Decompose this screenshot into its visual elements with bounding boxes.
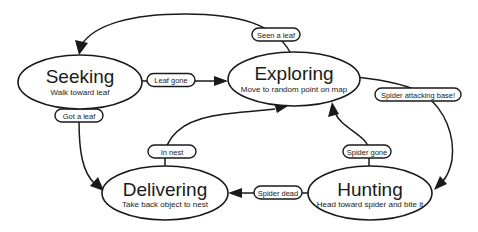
edge-in-nest: In nest (148, 103, 288, 166)
edge-seen-a-leaf: Seen a leaf (75, 14, 300, 55)
transition-label: In nest (161, 148, 184, 157)
state-description: Head toward spider and bite it (317, 200, 424, 209)
edge-spider-dead: Spider dead (228, 186, 308, 199)
state-description: Move to random point on map (241, 85, 348, 94)
transition-label: Leaf gone (154, 76, 187, 85)
state-seeking: Seeking Walk toward leaf (18, 55, 142, 109)
arrowhead-icon (328, 102, 339, 117)
edge-leaf-gone: Leaf gone (142, 74, 228, 87)
state-description: Walk toward leaf (51, 88, 111, 97)
state-title: Exploring (254, 63, 333, 84)
state-machine-diagram: Seen a leaf Leaf gone Got a leaf In nest… (0, 0, 478, 232)
state-title: Hunting (337, 179, 403, 200)
arrowhead-icon (75, 40, 88, 55)
transition-label: Spider attacking base! (381, 91, 455, 100)
transition-label: Seen a leaf (257, 31, 296, 40)
transition-label: Got a leaf (63, 112, 96, 121)
state-exploring: Exploring Move to random point on map (228, 52, 360, 106)
arrowhead-icon (214, 76, 228, 86)
edge-spider-gone: Spider gone (328, 102, 391, 166)
state-title: Delivering (123, 179, 207, 200)
transition-label: Spider gone (347, 148, 387, 157)
state-delivering: Delivering Take back object to nest (102, 166, 228, 220)
transition-label: Spider dead (258, 189, 298, 198)
state-hunting: Hunting Head toward spider and bite it (308, 166, 432, 220)
state-description: Take back object to nest (122, 200, 209, 209)
state-title: Seeking (46, 66, 115, 87)
arrowhead-icon (228, 188, 242, 198)
edge-got-a-leaf: Got a leaf (55, 109, 104, 191)
